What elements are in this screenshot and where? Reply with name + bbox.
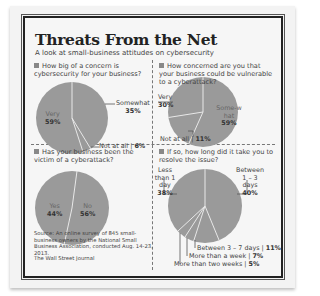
label-yes: Yes 44% bbox=[47, 203, 62, 218]
label-very-vulnerable: Very 30% bbox=[158, 94, 173, 109]
bullet-square-icon bbox=[34, 63, 39, 68]
label-very-concern: Very 59% bbox=[45, 111, 60, 126]
label-no: No 56% bbox=[80, 203, 95, 218]
bullet-square-icon bbox=[159, 149, 164, 154]
label-somewhat-concern: Somewhat 35% bbox=[116, 100, 150, 115]
publisher-credit: The Wall Street Journal bbox=[34, 255, 94, 261]
label-1-3-days: Between 1 – 3 days 40% bbox=[235, 167, 265, 197]
label-less-than-1-day: Less than 1 day 38% bbox=[153, 167, 177, 197]
infographic-frame: Threats From the Net A look at small-bus… bbox=[23, 16, 283, 278]
bullet-square-icon bbox=[34, 149, 39, 154]
source-note: Source: An online survey of 845 small-bu… bbox=[34, 230, 154, 256]
label-notatall-vulnerable: Not at all | 11% bbox=[160, 136, 211, 144]
label-more-than-two-weeks: More than two weeks | 5% bbox=[174, 261, 259, 269]
label-somewhat-vulnerable: Some-what 59% bbox=[215, 105, 243, 128]
question-concern: How big of a concern is cybersecurity fo… bbox=[34, 62, 146, 78]
question-vulnerable: How concerned are you that your business… bbox=[159, 62, 275, 87]
question-victim: Has your business been the victim of a c… bbox=[34, 148, 146, 164]
question-resolve: If so, how long did it take you to resol… bbox=[159, 148, 277, 164]
bullet-square-icon bbox=[159, 63, 164, 68]
